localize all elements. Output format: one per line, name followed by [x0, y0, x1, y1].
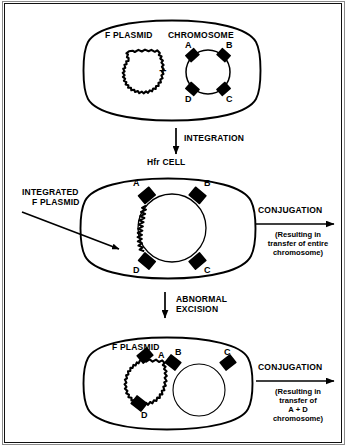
bottom-gene-label-B: B — [175, 348, 182, 358]
hfr-gene-label-A: A — [133, 179, 140, 189]
conjugation-top-heading: CONJUGATION — [258, 206, 322, 215]
hfr-gene-label-D: D — [133, 266, 140, 276]
hfr-gene-label-B: B — [204, 179, 211, 189]
diagram-root: F PLASMID CHROMOSOME + A B C D INTEGRATI… — [0, 0, 348, 448]
bottom-gene-label-D: D — [141, 411, 148, 421]
top-f-plasmid-label: F PLASMID — [105, 31, 153, 40]
hfr-gene-label-C: C — [204, 266, 211, 276]
top-chromosome-label: CHROMOSOME — [168, 31, 234, 40]
top-gene-label-C: C — [226, 95, 233, 105]
conjugation-bottom-heading: CONJUGATION — [258, 363, 322, 372]
diagram-graphics — [0, 0, 348, 448]
integrated-plasmid-callout-line2: F PLASMID — [32, 198, 80, 207]
bottom-gene-label-C: C — [224, 348, 231, 358]
integration-label: INTEGRATION — [184, 134, 244, 143]
bottom-f-plasmid-label: F PLASMID — [112, 343, 160, 352]
excision-label-line2: EXCISION — [176, 305, 218, 314]
hfr-cell-outline — [81, 179, 256, 279]
excision-label-line1: ABNORMAL — [176, 295, 227, 304]
conjugation-top-note-line3: chromosome) — [256, 249, 340, 258]
top-gene-label-A: A — [185, 41, 192, 51]
integrated-plasmid-callout-line1: INTEGRATED — [22, 188, 79, 197]
hfr-cell-label: Hfr CELL — [147, 158, 185, 167]
bottom-gene-label-A: A — [158, 351, 165, 361]
top-gene-label-D: D — [185, 95, 192, 105]
top-gene-label-B: B — [226, 41, 233, 51]
plus-sign: + — [159, 64, 167, 78]
conjugation-bottom-note-line4: chromosome) — [256, 415, 340, 424]
